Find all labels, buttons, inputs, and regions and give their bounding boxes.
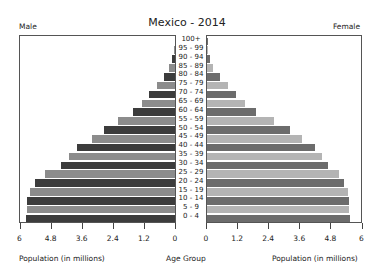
age-group-label: 35 - 39 — [176, 150, 206, 159]
tick-label: 6 — [5, 234, 35, 243]
age-group-label: 25 - 29 — [176, 168, 206, 177]
age-group-label: 100+ — [176, 35, 206, 44]
male-bar — [26, 215, 175, 223]
age-group-label: 60 - 64 — [176, 106, 206, 115]
age-group-label: 0 - 4 — [176, 212, 206, 221]
age-group-column: 100+95 - 9990 - 9485 - 8980 - 8475 - 797… — [176, 35, 206, 223]
axis-tick — [206, 223, 207, 229]
tick-label: 1.2 — [129, 234, 159, 243]
age-group-label: 10 - 14 — [176, 194, 206, 203]
tick-label: 6 — [347, 234, 374, 243]
male-bar — [169, 64, 175, 72]
tick-label: 2.4 — [253, 234, 283, 243]
age-group-label: 15 - 19 — [176, 186, 206, 195]
chart-title: Mexico - 2014 — [0, 16, 374, 29]
axis-tick — [51, 223, 52, 229]
age-group-label: 90 - 94 — [176, 53, 206, 62]
male-bar — [27, 206, 175, 214]
female-bar — [207, 64, 213, 72]
female-bar — [207, 170, 339, 178]
tick-label: 2.4 — [98, 234, 128, 243]
age-group-label: 65 - 69 — [176, 97, 206, 106]
tick-label: 0 — [191, 234, 221, 243]
male-bar — [27, 197, 175, 205]
male-label: Male — [19, 22, 37, 31]
male-bar — [133, 108, 175, 116]
male-bar — [142, 100, 175, 108]
age-group-label: 40 - 44 — [176, 141, 206, 150]
female-bar — [207, 55, 210, 63]
axis-tick — [268, 223, 269, 229]
age-axis-title: Age Group — [166, 254, 206, 263]
female-bar — [207, 82, 228, 90]
axis-tick — [82, 223, 83, 229]
female-plot-area — [206, 35, 362, 223]
tick-label: 3.6 — [284, 234, 314, 243]
age-group-label: 70 - 74 — [176, 88, 206, 97]
male-bar — [104, 126, 175, 134]
axis-tick — [330, 223, 331, 229]
age-group-label: 45 - 49 — [176, 132, 206, 141]
axis-tick — [299, 223, 300, 229]
male-bar — [77, 144, 175, 152]
female-bar — [207, 206, 349, 214]
male-bar — [69, 153, 175, 161]
male-bar — [61, 162, 175, 170]
female-axis-title: Population (in millions) — [272, 254, 358, 263]
axis-tick — [175, 223, 176, 229]
tick-label: 3.6 — [67, 234, 97, 243]
age-group-label: 50 - 54 — [176, 124, 206, 133]
female-bar — [207, 179, 344, 187]
female-bar — [207, 215, 350, 223]
female-bar — [207, 108, 256, 116]
tick-label: 0 — [160, 234, 190, 243]
axis-tick — [20, 223, 21, 229]
male-axis-title: Population (in millions) — [19, 254, 105, 263]
axis-tick — [113, 223, 114, 229]
age-group-label: 5 - 9 — [176, 203, 206, 212]
age-group-label: 80 - 84 — [176, 70, 206, 79]
male-plot-area — [19, 35, 176, 223]
female-bar — [207, 153, 322, 161]
male-bar — [172, 55, 175, 63]
female-bar — [207, 188, 348, 196]
male-bar — [118, 117, 175, 125]
age-group-label: 95 - 99 — [176, 44, 206, 53]
female-bar — [207, 46, 208, 54]
axis-tick — [144, 223, 145, 229]
tick-label: 4.8 — [36, 234, 66, 243]
male-bar — [45, 170, 175, 178]
tick-label: 4.8 — [315, 234, 345, 243]
female-label: Female — [333, 22, 360, 31]
female-bar — [207, 144, 315, 152]
female-bar — [207, 135, 302, 143]
age-group-label: 85 - 89 — [176, 62, 206, 71]
male-bar — [149, 91, 175, 99]
female-bar — [207, 91, 236, 99]
male-bar — [164, 73, 175, 81]
axis-tick — [362, 223, 363, 229]
tick-label: 1.2 — [222, 234, 252, 243]
age-group-label: 75 - 79 — [176, 79, 206, 88]
female-bar — [207, 100, 245, 108]
male-bar — [30, 188, 175, 196]
female-bar — [207, 117, 274, 125]
female-bar — [207, 73, 220, 81]
age-group-label: 20 - 24 — [176, 177, 206, 186]
female-bar — [207, 162, 328, 170]
male-bar — [92, 135, 175, 143]
age-group-label: 30 - 34 — [176, 159, 206, 168]
age-group-label: 55 - 59 — [176, 115, 206, 124]
axis-tick — [237, 223, 238, 229]
female-bar — [207, 126, 290, 134]
male-bar — [174, 46, 175, 54]
male-bar — [35, 179, 175, 187]
female-bar — [207, 197, 349, 205]
male-bar — [157, 82, 175, 90]
